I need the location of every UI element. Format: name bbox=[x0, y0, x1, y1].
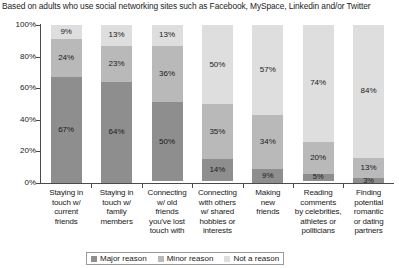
bar-segment[interactable]: 74% bbox=[303, 25, 334, 142]
x-axis-category-label-line: romantic bbox=[340, 207, 398, 217]
bar-segment[interactable]: 50% bbox=[202, 25, 233, 104]
x-axis-category-label-line: Staying in bbox=[88, 188, 146, 198]
bar-segment[interactable]: 3% bbox=[353, 178, 384, 183]
bar-segment[interactable]: 13% bbox=[152, 25, 183, 46]
x-axis-line bbox=[40, 183, 394, 184]
bar-segment-value-label: 13% bbox=[353, 164, 384, 172]
x-axis-category-label-line: or dating bbox=[340, 217, 398, 227]
bar-segment[interactable]: 9% bbox=[51, 25, 82, 39]
y-axis-tick-mark bbox=[36, 120, 40, 121]
bar-segment[interactable]: 84% bbox=[353, 25, 384, 158]
bar-segment[interactable]: 23% bbox=[101, 46, 132, 82]
bar-segment[interactable]: 5% bbox=[303, 174, 334, 182]
legend-swatch-icon bbox=[158, 256, 164, 262]
chart-header-note: Based on adults who use social networkin… bbox=[2, 1, 398, 12]
x-axis-category-label-line: Connecting bbox=[138, 188, 196, 198]
bar-segment[interactable]: 13% bbox=[101, 25, 132, 46]
bar-stack[interactable]: 13%23%64% bbox=[101, 25, 132, 183]
x-axis-category-label: Staying intouch w/currentfriends bbox=[37, 188, 95, 226]
bar-segment-value-label: 13% bbox=[101, 31, 132, 39]
x-axis-category-label-line: family bbox=[88, 207, 146, 217]
x-axis-category-label-line: partners bbox=[340, 226, 398, 236]
bar-segment-value-label: 9% bbox=[51, 28, 82, 36]
x-axis-category-label-line: current bbox=[37, 207, 95, 217]
y-axis-tick-label: 60% bbox=[2, 84, 36, 92]
x-axis-category-label: Staying intouch w/familymembers bbox=[88, 188, 146, 226]
x-axis-category-label-line: politicians bbox=[289, 226, 347, 236]
x-axis-category-label-line: friends bbox=[138, 207, 196, 217]
bar-stack[interactable]: 9%24%67% bbox=[51, 25, 82, 183]
bar-segment-value-label: 24% bbox=[51, 54, 82, 62]
bar-segment-value-label: 34% bbox=[252, 138, 283, 146]
stacked-bar-chart-figure: Based on adults who use social networkin… bbox=[0, 0, 399, 268]
x-axis-category-label: Connectingw/ oldfriendsyou've losttouch … bbox=[138, 188, 196, 236]
bar-segment-value-label: 20% bbox=[303, 154, 334, 162]
x-axis-category-label-line: with others bbox=[188, 198, 246, 208]
bar-segment[interactable]: 57% bbox=[252, 25, 283, 115]
y-axis-tick-mark bbox=[36, 57, 40, 58]
bar-segment-value-label: 57% bbox=[252, 66, 283, 74]
bar-segment[interactable]: 67% bbox=[51, 77, 82, 183]
x-axis-category-label-line: you've lost bbox=[138, 217, 196, 227]
y-axis-tick-label: 100% bbox=[2, 21, 36, 29]
bar-segment-value-label: 84% bbox=[353, 87, 384, 95]
bar-stack[interactable]: 84%13%3% bbox=[353, 25, 384, 183]
bar-segment-value-label: 5% bbox=[303, 173, 334, 181]
bar-stack[interactable]: 13%36%50% bbox=[152, 25, 183, 183]
bar-segment-value-label: 74% bbox=[303, 79, 334, 87]
legend-swatch-icon bbox=[91, 256, 97, 262]
y-axis-tick-mark bbox=[36, 151, 40, 152]
chart-legend: Major reasonMinor reasonNot a reason bbox=[86, 252, 284, 265]
x-axis-category-label-line: comments bbox=[289, 198, 347, 208]
x-axis-category-label-line: w/ shared bbox=[188, 207, 246, 217]
y-axis-tick-mark bbox=[36, 88, 40, 89]
bar-segment-value-label: 13% bbox=[152, 31, 183, 39]
x-axis-category-label: Connectingwith othersw/ sharedhobbies or… bbox=[188, 188, 246, 236]
y-axis-tick-label: 40% bbox=[2, 116, 36, 124]
bar-segment-value-label: 50% bbox=[152, 138, 183, 146]
bar-segment[interactable]: 9% bbox=[252, 169, 283, 183]
bar-segment-value-label: 3% bbox=[353, 177, 384, 185]
x-axis-category-label-line: touch w/ bbox=[88, 198, 146, 208]
x-axis-category-label-line: friends bbox=[37, 217, 95, 227]
x-axis-category-label-line: members bbox=[88, 217, 146, 227]
x-axis-category-label-line: touch w/ bbox=[37, 198, 95, 208]
x-axis-category-label-line: friends bbox=[239, 207, 297, 217]
x-axis-category-label-line: potential bbox=[340, 198, 398, 208]
bar-segment[interactable]: 24% bbox=[51, 39, 82, 77]
bar-segment[interactable]: 20% bbox=[303, 142, 334, 174]
bar-segment[interactable]: 64% bbox=[101, 82, 132, 183]
legend-item[interactable]: Not a reason bbox=[224, 255, 279, 263]
x-axis-category-label-line: by celebrities, bbox=[289, 207, 347, 217]
bar-stack[interactable]: 50%35%14% bbox=[202, 25, 233, 183]
x-axis-category-label-line: touch with bbox=[138, 226, 196, 236]
bar-segment-value-label: 9% bbox=[252, 172, 283, 180]
x-axis-category-label-line: Making bbox=[239, 188, 297, 198]
bar-segment-value-label: 64% bbox=[101, 128, 132, 136]
bar-segment[interactable]: 36% bbox=[152, 46, 183, 103]
bar-stack[interactable]: 57%34%9% bbox=[252, 25, 283, 183]
bar-segment[interactable]: 14% bbox=[202, 159, 233, 181]
y-axis-tick-label: 20% bbox=[2, 147, 36, 155]
x-axis-category-label: Makingnewfriends bbox=[239, 188, 297, 217]
x-axis-category-label-line: w/ old bbox=[138, 198, 196, 208]
bar-segment-value-label: 50% bbox=[202, 61, 233, 69]
x-axis-category-label-line: Finding bbox=[340, 188, 398, 198]
x-axis-category-label-line: interests bbox=[188, 226, 246, 236]
bar-segment-value-label: 36% bbox=[152, 70, 183, 78]
bar-segment-value-label: 67% bbox=[51, 126, 82, 134]
y-axis-tick-label: 80% bbox=[2, 53, 36, 61]
bar-segment[interactable]: 50% bbox=[152, 102, 183, 181]
x-axis-category-label-line: Staying in bbox=[37, 188, 95, 198]
bar-segment-value-label: 14% bbox=[202, 166, 233, 174]
bar-segment-value-label: 35% bbox=[202, 128, 233, 136]
x-axis-category-label-line: new bbox=[239, 198, 297, 208]
bar-segment[interactable]: 35% bbox=[202, 104, 233, 159]
legend-item[interactable]: Major reason bbox=[91, 255, 147, 263]
y-axis-tick-mark bbox=[36, 25, 40, 26]
y-axis-tick-mark bbox=[36, 183, 40, 184]
legend-item[interactable]: Minor reason bbox=[158, 255, 214, 263]
bar-segment[interactable]: 34% bbox=[252, 115, 283, 169]
x-axis-category-label-line: hobbies or bbox=[188, 217, 246, 227]
bar-stack[interactable]: 74%20%5% bbox=[303, 25, 334, 183]
